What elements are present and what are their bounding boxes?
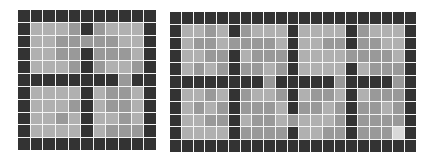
grid-cell <box>393 127 404 139</box>
grid-cell <box>205 25 216 37</box>
grid-cell <box>119 113 131 125</box>
grid-cell <box>43 100 55 112</box>
grid-cell <box>18 138 30 150</box>
grid-cell <box>276 76 287 88</box>
grid-cell <box>144 23 156 35</box>
grid-cell <box>182 38 193 50</box>
grid-cell <box>56 113 68 125</box>
grid-cell <box>94 48 106 60</box>
grid-cell <box>94 23 106 35</box>
grid-cell <box>393 38 404 50</box>
grid-cell <box>358 102 369 114</box>
grid-cell <box>94 10 106 22</box>
grid-cell <box>132 36 144 48</box>
grid-cell <box>229 12 240 24</box>
grid-cell <box>205 102 216 114</box>
grid-cell <box>144 113 156 125</box>
grid-cell <box>69 48 81 60</box>
grid-cell <box>229 102 240 114</box>
grid-cell <box>182 102 193 114</box>
grid-cell <box>370 140 381 152</box>
grid-cell <box>56 10 68 22</box>
grid-cell <box>276 38 287 50</box>
grid-cell <box>194 89 205 101</box>
grid-cell <box>144 100 156 112</box>
grid-cell <box>229 25 240 37</box>
grid-cell <box>205 89 216 101</box>
grid-cell <box>299 38 310 50</box>
grid-cell <box>81 36 93 48</box>
grid-cell <box>299 25 310 37</box>
grid-cell <box>194 140 205 152</box>
grid-cell <box>81 48 93 60</box>
grid-cell <box>229 50 240 62</box>
grid-cell <box>217 12 228 24</box>
grid-cell <box>335 63 346 75</box>
grid-cell <box>229 63 240 75</box>
grid-cell <box>335 25 346 37</box>
grid-cell <box>205 76 216 88</box>
grid-cell <box>252 140 263 152</box>
grid-cell <box>382 63 393 75</box>
grid-cell <box>346 38 357 50</box>
grid-cell <box>106 10 118 22</box>
grid-cell <box>194 76 205 88</box>
grid-cell <box>252 102 263 114</box>
grid-cell <box>56 100 68 112</box>
grid-cell <box>18 48 30 60</box>
grid-cell <box>288 127 299 139</box>
grid-cell <box>264 12 275 24</box>
grid-cell <box>264 25 275 37</box>
grid-cell <box>382 38 393 50</box>
grid-cell <box>69 23 81 35</box>
grid-cell <box>299 140 310 152</box>
grid-cell <box>276 12 287 24</box>
grid-cell <box>370 63 381 75</box>
grid-cell <box>288 12 299 24</box>
grid-cell <box>393 63 404 75</box>
grid-cell <box>132 10 144 22</box>
grid-cell <box>182 127 193 139</box>
grid-cell <box>382 102 393 114</box>
grid-cell <box>119 74 131 86</box>
grid-cell <box>69 87 81 99</box>
grid-cell <box>370 50 381 62</box>
grid-cell <box>94 138 106 150</box>
grid-cell <box>276 25 287 37</box>
grid-cell <box>346 140 357 152</box>
grid-cell <box>43 74 55 86</box>
grid-cell <box>217 140 228 152</box>
grid-cell <box>94 125 106 137</box>
grid-cell <box>323 102 334 114</box>
grid-cell <box>18 61 30 73</box>
grid-cell <box>81 10 93 22</box>
grid-cell <box>241 127 252 139</box>
grid-cell <box>288 102 299 114</box>
grid-cell <box>382 115 393 127</box>
grid-cell <box>217 115 228 127</box>
grid-cell <box>31 100 43 112</box>
grid-cell <box>346 12 357 24</box>
grid-cell <box>170 76 181 88</box>
grid-cell <box>56 61 68 73</box>
grid-cell <box>182 89 193 101</box>
grid-cell <box>182 25 193 37</box>
grid-cell <box>56 36 68 48</box>
grid-cell <box>323 25 334 37</box>
grid-cell <box>119 61 131 73</box>
grid-cell <box>276 102 287 114</box>
grid-cell <box>144 138 156 150</box>
grid-cell <box>31 36 43 48</box>
grid-cell <box>229 38 240 50</box>
grid-cell <box>323 140 334 152</box>
grid-cell <box>106 125 118 137</box>
grid-cell <box>335 89 346 101</box>
grid-cell <box>311 102 322 114</box>
grid-cell <box>69 100 81 112</box>
grid-cell <box>106 23 118 35</box>
grid-cell <box>144 87 156 99</box>
grid-cell <box>358 89 369 101</box>
grid-cell <box>106 61 118 73</box>
grid-cell <box>217 50 228 62</box>
grid-cell <box>132 113 144 125</box>
